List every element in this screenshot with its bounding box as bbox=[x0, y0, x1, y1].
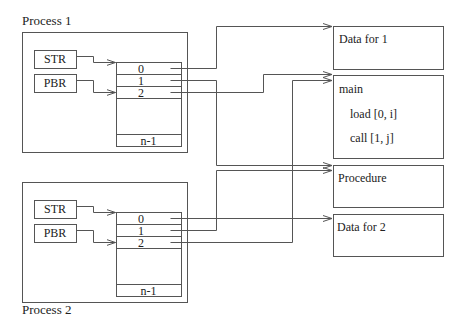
main-line-load: load [0, i] bbox=[350, 107, 397, 121]
diagram-canvas bbox=[0, 0, 469, 320]
process2-row-2: 2 bbox=[116, 236, 166, 250]
main-title: main bbox=[339, 82, 363, 96]
process2-row-last: n-1 bbox=[116, 284, 181, 298]
process1-title: Process 1 bbox=[22, 14, 71, 28]
main-line-call: call [1, j] bbox=[350, 131, 394, 145]
process1-row-last: n-1 bbox=[116, 134, 181, 148]
data2-title: Data for 2 bbox=[337, 220, 386, 234]
process1-str-label: STR bbox=[34, 52, 76, 66]
process2-pbr-label: PBR bbox=[34, 226, 76, 240]
process2-title: Process 2 bbox=[22, 303, 71, 317]
process2-str-label: STR bbox=[34, 202, 76, 216]
data1-title: Data for 1 bbox=[339, 32, 388, 46]
process1-row-2: 2 bbox=[116, 86, 166, 100]
process1-pbr-label: PBR bbox=[34, 76, 76, 90]
procedure-title: Procedure bbox=[338, 171, 387, 185]
